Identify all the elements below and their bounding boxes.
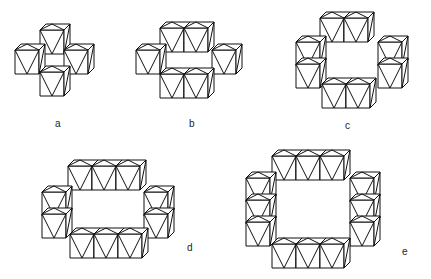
panel-e-structure xyxy=(246,150,380,268)
panel-label-b: b xyxy=(189,118,195,129)
panel-c-structure xyxy=(296,12,408,108)
tunnel-structure-figure: a b c d e xyxy=(0,0,431,279)
panel-a-structure xyxy=(15,24,94,96)
octahedra-diagram xyxy=(0,0,431,279)
panel-b-structure xyxy=(136,22,242,98)
panel-d-structure xyxy=(42,160,174,258)
panel-label-d: d xyxy=(187,242,193,253)
panel-label-a: a xyxy=(55,118,61,129)
panel-label-c: c xyxy=(345,120,350,131)
panel-label-e: e xyxy=(402,246,408,257)
